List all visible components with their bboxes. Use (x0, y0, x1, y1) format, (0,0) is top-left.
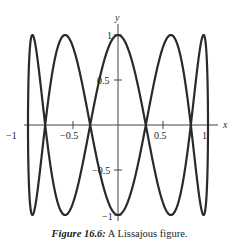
x-tick-label: 0.5 (154, 130, 167, 141)
figure-caption: Figure 16.6: A Lissajous figure. (0, 228, 239, 239)
figure-caption-text: A Lissajous figure. (108, 228, 188, 239)
y-tick-label: −1 (102, 211, 113, 222)
x-tick-label: −0.5 (60, 130, 78, 141)
x-axis-label: x (222, 119, 228, 130)
lissajous-figure: −1 −0.5 0.5 1 1 0.5 −0.5 −1 x y (0, 0, 239, 249)
y-tick-label: 1 (107, 30, 112, 41)
figure-number: Figure 16.6: (52, 228, 106, 239)
x-tick-label: 1 (202, 130, 207, 141)
y-axis-label: y (114, 12, 120, 23)
x-tick-label: −1 (6, 130, 17, 141)
y-tick-label: 0.5 (97, 75, 110, 86)
y-tick-label: −0.5 (92, 165, 110, 176)
